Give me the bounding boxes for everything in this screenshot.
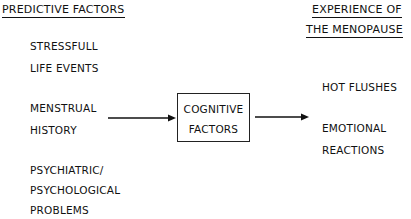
arrow-cognitive-to-experience xyxy=(255,114,309,121)
arrow-menstrual-to-cognitive xyxy=(108,115,176,122)
arrows-layer xyxy=(0,0,411,219)
outcome-label-line: REACTIONS xyxy=(322,144,384,156)
outcome-label-line: HOT FLUSHES xyxy=(322,81,397,93)
outcome-label-line: EMOTIONAL xyxy=(322,122,386,134)
